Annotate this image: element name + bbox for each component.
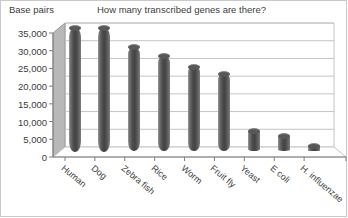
- y-tick-label: 30,000: [18, 45, 47, 56]
- bar: [278, 136, 290, 152]
- bar-top-ellipse: [248, 128, 260, 134]
- bar-top-ellipse: [278, 133, 290, 139]
- bar-top-ellipse: [69, 25, 81, 31]
- bar-body: [158, 56, 170, 152]
- bar-body: [128, 47, 140, 152]
- bar-top-ellipse: [308, 143, 320, 149]
- bar-top-ellipse: [218, 71, 230, 77]
- bar-body: [218, 74, 230, 152]
- y-tick-label: 20,000: [18, 81, 47, 92]
- y-tick-label: 10,000: [18, 116, 47, 127]
- bar: [218, 74, 230, 152]
- plot-graphics: [1, 1, 348, 218]
- bar: [308, 145, 320, 151]
- bar: [69, 28, 81, 152]
- x-tick-marks: [65, 157, 346, 161]
- chart-container: Base pairs How many transcribed genes ar…: [0, 0, 347, 217]
- y-tick-label: 0: [42, 152, 47, 163]
- bar-body: [69, 28, 81, 152]
- plot-area: 05,00010,00015,00020,00025,00030,00035,0…: [1, 1, 348, 218]
- bar-top-ellipse: [188, 64, 200, 70]
- bar: [128, 47, 140, 152]
- bar: [188, 66, 200, 151]
- bar: [248, 130, 260, 151]
- left-side-wall: [53, 23, 65, 157]
- y-tick-label: 15,000: [18, 98, 47, 109]
- y-tick-label: 5,000: [23, 134, 47, 145]
- bar: [158, 56, 170, 152]
- bar-body: [188, 66, 200, 151]
- bar: [98, 28, 110, 152]
- bar-body: [98, 28, 110, 152]
- y-tick-marks: [49, 33, 53, 157]
- y-tick-label: 25,000: [18, 63, 47, 74]
- y-tick-label: 35,000: [18, 28, 47, 39]
